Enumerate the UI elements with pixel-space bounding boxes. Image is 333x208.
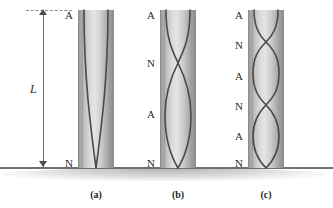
tube-c-label-node-3: N <box>232 158 246 169</box>
ground-shadow <box>2 168 327 181</box>
tube-c-label-antinode-1: A <box>232 10 246 21</box>
tube-c-label-antinode-2: A <box>232 71 246 82</box>
tube-b-label-node-1: N <box>144 58 158 69</box>
tube-b <box>160 10 196 168</box>
tube-b-label-antinode-2: A <box>144 109 158 120</box>
tube-c <box>248 10 284 168</box>
tube-b-wave <box>160 10 196 168</box>
tube-a-label-antinode-top: A <box>62 10 76 21</box>
standing-wave-figure: L A N (a) A N A N (b) <box>0 0 333 208</box>
length-label: L <box>30 82 37 97</box>
tube-b-label-node-2: N <box>144 158 158 169</box>
tube-c-label-node-1: N <box>232 40 246 51</box>
tube-a <box>78 10 114 168</box>
tube-c-label-antinode-3: A <box>232 131 246 142</box>
tube-c-wave <box>248 10 284 168</box>
tube-a-caption: (a) <box>81 189 111 200</box>
tube-c-caption: (c) <box>251 189 281 200</box>
tube-a-label-node-bottom: N <box>62 158 76 169</box>
tube-a-wave <box>78 10 114 168</box>
tube-c-label-node-2: N <box>232 101 246 112</box>
length-dimension-line <box>43 13 44 167</box>
tube-b-label-antinode-1: A <box>144 10 158 21</box>
arrow-down-icon <box>39 161 47 167</box>
tube-b-caption: (b) <box>163 189 193 200</box>
arrow-up-icon <box>39 9 47 15</box>
